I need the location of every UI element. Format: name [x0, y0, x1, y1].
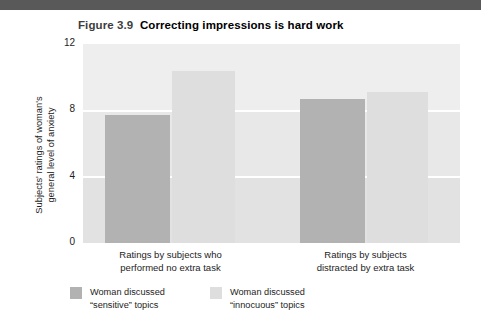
x-category-label-1-line1: Ratings by subjects who	[83, 249, 258, 262]
x-category-label-2-line1: Ratings by subjects	[278, 249, 453, 262]
bar-group2-innocuous	[367, 92, 428, 243]
legend-label-innocuous-line2: “innocuous” topics	[230, 299, 305, 312]
y-tick-12: 12	[49, 37, 75, 48]
bar-group1-innocuous	[172, 71, 235, 244]
chart-legend: Woman discussed “sensitive” topics Woman…	[70, 286, 470, 316]
legend-swatch-sensitive-icon	[70, 287, 82, 299]
legend-label-innocuous-line1: Woman discussed	[230, 286, 305, 299]
plot-area	[83, 44, 460, 243]
x-category-label-2: Ratings by subjects distracted by extra …	[278, 249, 453, 274]
legend-label-innocuous: Woman discussed “innocuous” topics	[230, 286, 305, 311]
figure-title: Figure 3.9 Correcting impressions is har…	[78, 19, 343, 31]
x-category-label-1-line2: performed no extra task	[83, 262, 258, 275]
x-axis-labels: Ratings by subjects who performed no ext…	[83, 249, 460, 279]
figure-title-text: Correcting impressions is hard work	[140, 19, 344, 31]
legend-swatch-innocuous-icon	[210, 287, 222, 299]
legend-label-sensitive-line2: “sensitive” topics	[90, 299, 165, 312]
x-category-label-2-line2: distracted by extra task	[278, 262, 453, 275]
y-tick-0: 0	[49, 236, 75, 247]
figure-number-label: Figure 3.9	[78, 19, 133, 31]
legend-item-innocuous: Woman discussed “innocuous” topics	[210, 286, 305, 311]
y-axis-ticks: 12 8 4 0	[47, 44, 75, 243]
y-tick-4: 4	[49, 170, 75, 181]
y-tick-8: 8	[49, 103, 75, 114]
legend-label-sensitive: Woman discussed “sensitive” topics	[90, 286, 165, 311]
y-axis-label-line1: Subjects' ratings of woman's	[33, 50, 45, 260]
bar-group2-sensitive	[300, 99, 365, 243]
page-top-band	[0, 0, 481, 10]
legend-item-sensitive: Woman discussed “sensitive” topics	[70, 286, 165, 311]
figure-page: Figure 3.9 Correcting impressions is har…	[0, 0, 481, 324]
x-category-label-1: Ratings by subjects who performed no ext…	[83, 249, 258, 274]
bar-group1-sensitive	[105, 115, 170, 243]
legend-label-sensitive-line1: Woman discussed	[90, 286, 165, 299]
